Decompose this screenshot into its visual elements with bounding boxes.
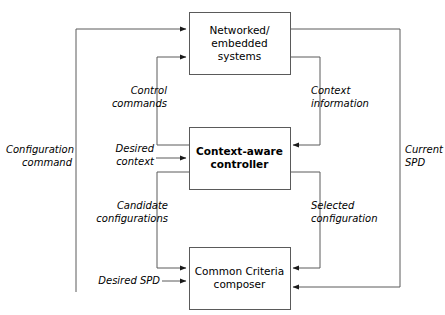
- edge-label-candidate-configurations: Candidate configurations: [88, 199, 168, 225]
- edge-label-context-information: Context information: [311, 84, 391, 110]
- box-context-aware-controller: [190, 128, 291, 190]
- edge-label-control-commands: Control commands: [95, 84, 167, 110]
- box-outline-group: [190, 13, 291, 310]
- edge-label-current-spd: Current SPD: [405, 143, 445, 169]
- box-common-criteria-composer: [190, 248, 291, 310]
- connector-current-spd-path: [290, 29, 400, 287]
- edge-label-selected-configuration: Selected configuration: [311, 199, 396, 225]
- box-networked-embedded-systems: [190, 13, 291, 75]
- edge-label-desired-spd: Desired SPD: [94, 274, 160, 287]
- edge-label-desired-context: Desired context: [104, 142, 154, 168]
- diagram-canvas: Networked/ embedded systems Context-awar…: [0, 0, 445, 315]
- edge-label-configuration-command: Configuration command: [6, 143, 72, 169]
